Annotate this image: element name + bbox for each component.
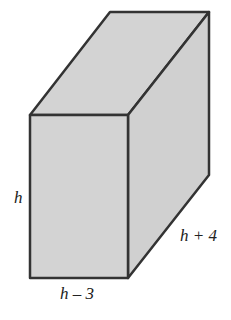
- front-face: [30, 115, 128, 278]
- depth-label: h + 4: [180, 226, 217, 246]
- prism-diagram: [0, 0, 231, 320]
- width-label: h – 3: [60, 284, 94, 304]
- height-label: h: [14, 188, 23, 208]
